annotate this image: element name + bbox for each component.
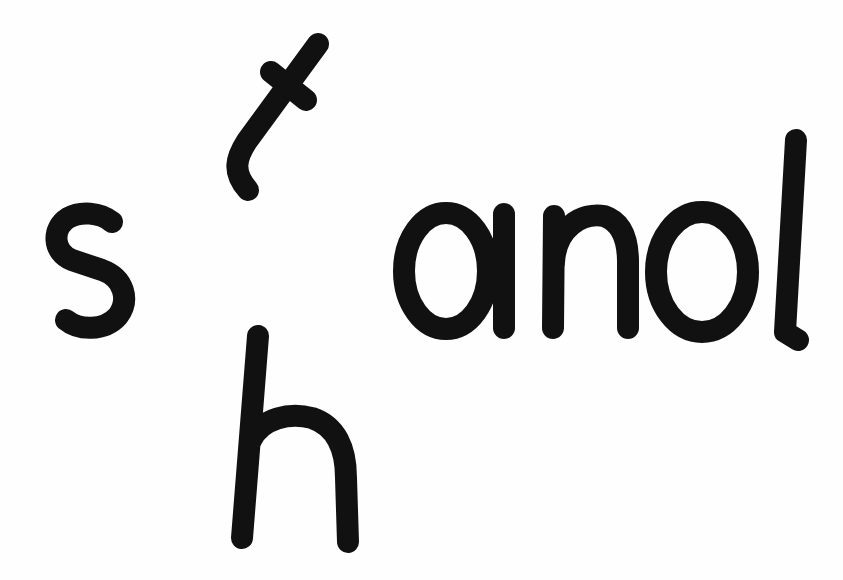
letter-n	[553, 215, 628, 328]
letter-s	[56, 213, 124, 327]
letters-canvas	[0, 0, 843, 580]
letter-card: s t and h	[0, 0, 843, 580]
letter-a	[404, 213, 504, 329]
letter-d	[656, 140, 798, 340]
letter-t	[237, 44, 318, 190]
letter-h	[242, 336, 348, 542]
